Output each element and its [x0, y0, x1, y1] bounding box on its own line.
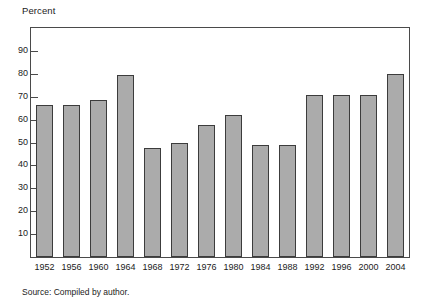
bar: [36, 105, 54, 257]
bar-chart-figure: Percent 102030405060708090 1952195619601…: [0, 0, 424, 306]
y-axis-tick-label: 90: [18, 46, 28, 55]
x-axis-tick-label: 1988: [274, 262, 301, 272]
x-axis-tick-label: 1968: [139, 262, 166, 272]
y-axis-tick-label: 60: [18, 115, 28, 124]
x-axis-tick-label: 2004: [382, 262, 409, 272]
x-axis-tick-label: 2000: [355, 262, 382, 272]
y-axis-tick-label: 80: [18, 69, 28, 78]
source-note: Source: Compiled by author.: [22, 287, 129, 297]
x-axis-tick-label: 1964: [112, 262, 139, 272]
y-axis-tick-label: 30: [18, 183, 28, 192]
x-axis-tick-label: 1956: [58, 262, 85, 272]
y-axis-tick-label: 20: [18, 206, 28, 215]
x-axis-tick-label: 1960: [85, 262, 112, 272]
x-axis-tick-label: 1984: [247, 262, 274, 272]
y-axis-tick-label: 10: [18, 229, 28, 238]
bar: [333, 95, 351, 257]
y-axis-tick-label: 50: [18, 138, 28, 147]
y-axis-unit-label: Percent: [22, 5, 55, 16]
y-axis-tick-label: 40: [18, 160, 28, 169]
bar: [252, 145, 270, 257]
bar: [225, 115, 243, 257]
x-axis-tick-label: 1996: [328, 262, 355, 272]
bar: [279, 145, 297, 257]
bars-container: [31, 28, 409, 257]
x-axis-tick-label: 1980: [220, 262, 247, 272]
x-axis-tick-label: 1972: [166, 262, 193, 272]
bar: [306, 95, 324, 257]
bar: [90, 100, 108, 257]
bar: [171, 143, 189, 258]
bar: [360, 95, 378, 257]
bar: [144, 148, 162, 257]
x-axis-tick-label: 1952: [31, 262, 58, 272]
bar: [117, 75, 135, 257]
bar: [387, 74, 405, 257]
x-axis-tick-label: 1992: [301, 262, 328, 272]
bar: [198, 125, 216, 257]
x-axis-tick-label: 1976: [193, 262, 220, 272]
y-axis-tick-label: 70: [18, 92, 28, 101]
bar: [63, 105, 81, 257]
